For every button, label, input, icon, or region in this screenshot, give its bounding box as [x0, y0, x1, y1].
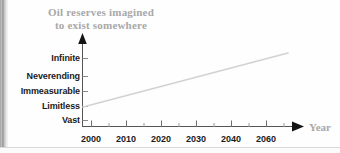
x-axis-arrow-icon	[292, 122, 304, 132]
x-axis-label-2060: 2060	[246, 135, 286, 144]
y-axis-label-limitless: Limitless	[0, 102, 80, 111]
x-axis-label-2040: 2040	[211, 135, 251, 144]
y-axis-label-vast: Vast	[0, 116, 80, 125]
y-axis-label-immeasurable: Immeasurable	[0, 87, 80, 96]
y-axis-ticks	[83, 59, 89, 121]
x-axis-label-2020: 2020	[141, 135, 181, 144]
x-axis-title: Year	[309, 122, 331, 133]
y-axis-arrow-icon	[78, 33, 87, 44]
x-axis-label-2030: 2030	[176, 135, 216, 144]
y-axis-label-infinite: Infinite	[0, 54, 80, 63]
chart-screenshot: Oil reserves imagined to exist somewhere	[0, 0, 340, 153]
x-axis-label-2000: 2000	[71, 135, 111, 144]
x-axis-label-2010: 2010	[106, 135, 146, 144]
y-axis-label-neverending: Neverending	[0, 72, 80, 81]
data-series-line	[83, 53, 288, 107]
